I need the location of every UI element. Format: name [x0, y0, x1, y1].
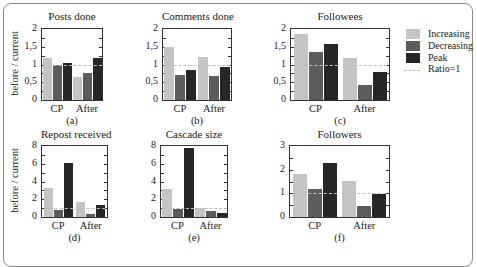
- y-tick-label: 0: [136, 210, 156, 221]
- y-tick-mark: [42, 173, 45, 174]
- y-tick-mark: [104, 182, 107, 183]
- bar-decreasing-after: [83, 73, 92, 100]
- panel-label: (f): [330, 232, 350, 243]
- y-tick-label: 2: [17, 192, 37, 203]
- y-tick-mark: [104, 190, 107, 191]
- y-tick-label: 0: [138, 93, 158, 104]
- y-tick-mark: [224, 155, 227, 156]
- x-category-label: CP: [298, 103, 334, 114]
- y-tick-label: 0,5: [266, 75, 286, 86]
- y-tick-mark: [42, 47, 45, 48]
- x-category-label: After: [73, 220, 109, 231]
- y-tick-mark: [386, 170, 389, 171]
- legend-dash-ratio: [404, 70, 420, 71]
- y-tick-mark: [99, 56, 102, 57]
- y-tick-label: 2: [136, 192, 156, 203]
- x-category-label: CP: [40, 220, 76, 231]
- bar-peak-cp: [324, 44, 338, 100]
- bar-peak-cp: [186, 70, 196, 100]
- ratio-reference-line: [164, 65, 196, 66]
- y-tick-mark: [290, 170, 293, 171]
- y-tick-label: 0: [17, 210, 37, 221]
- ratio-reference-line: [342, 193, 386, 194]
- y-tick-mark: [228, 38, 231, 39]
- bar-decreasing-after: [86, 214, 95, 217]
- y-tick-mark: [161, 155, 164, 156]
- y-tick-mark: [161, 164, 164, 165]
- y-tick-label: 1: [266, 58, 286, 69]
- bar-peak-after: [373, 72, 387, 100]
- chart-title: Followers: [289, 128, 390, 140]
- legend-swatch-peak: [406, 53, 420, 63]
- y-tick-mark: [161, 182, 164, 183]
- bar-decreasing-after: [209, 76, 219, 100]
- ratio-reference-line: [73, 65, 102, 66]
- bar-decreasing-cp: [175, 75, 185, 100]
- panel-label: (c): [330, 115, 350, 126]
- chart-title: Cascade size: [160, 128, 228, 140]
- ratio-reference-line: [293, 193, 337, 194]
- y-tick-mark: [386, 182, 389, 183]
- legend-swatch-increasing: [406, 29, 420, 39]
- bar-increasing-after: [195, 208, 205, 217]
- ratio-reference-line: [294, 65, 338, 66]
- bar-increasing-after: [342, 181, 356, 217]
- y-tick-mark: [290, 158, 293, 159]
- y-tick-mark: [104, 164, 107, 165]
- y-tick-mark: [386, 38, 389, 39]
- bar-increasing-cp: [293, 174, 307, 217]
- legend-swatch-decreasing: [406, 41, 420, 51]
- bar-increasing-cp: [162, 189, 172, 217]
- x-category-label: After: [193, 220, 229, 231]
- y-tick-label: 1: [138, 58, 158, 69]
- y-tick-label: 2: [17, 22, 37, 33]
- x-category-label: CP: [160, 220, 196, 231]
- panel-label: (b): [187, 115, 207, 126]
- y-tick-label: 0,5: [138, 75, 158, 86]
- y-tick-mark: [224, 182, 227, 183]
- bar-decreasing-cp: [309, 52, 323, 100]
- y-tick-label: 4: [17, 175, 37, 186]
- chart-title: Repost received: [41, 128, 108, 140]
- ratio-reference-line: [162, 208, 194, 209]
- ratio-reference-line: [198, 65, 230, 66]
- y-tick-label: 6: [136, 157, 156, 168]
- bar-increasing-after: [76, 202, 85, 217]
- x-category-label: After: [347, 103, 383, 114]
- y-tick-mark: [104, 155, 107, 156]
- bar-increasing-cp: [44, 188, 53, 217]
- bar-peak-cp: [184, 148, 194, 217]
- y-tick-label: 0,5: [17, 75, 37, 86]
- bar-decreasing-after: [357, 206, 371, 217]
- chart-title: Comments done: [162, 10, 232, 22]
- bar-peak-after: [220, 67, 230, 100]
- y-tick-mark: [386, 205, 389, 206]
- bar-increasing-cp: [164, 47, 174, 100]
- bar-increasing-cp: [294, 34, 308, 100]
- x-category-label: After: [196, 103, 232, 114]
- y-tick-mark: [42, 56, 45, 57]
- panel-label: (e): [184, 232, 204, 243]
- bar-decreasing-after: [206, 211, 216, 217]
- y-tick-mark: [163, 38, 166, 39]
- y-tick-mark: [224, 190, 227, 191]
- bar-decreasing-after: [358, 85, 372, 100]
- y-tick-label: 1: [265, 186, 285, 197]
- panel-label: (d): [65, 232, 85, 243]
- ratio-reference-line: [343, 65, 387, 66]
- bar-decreasing-cp: [54, 210, 63, 217]
- y-tick-mark: [224, 199, 227, 200]
- y-tick-mark: [224, 173, 227, 174]
- y-tick-label: 1: [17, 58, 37, 69]
- bar-decreasing-cp: [53, 65, 62, 101]
- ratio-reference-line: [76, 208, 105, 209]
- y-tick-mark: [386, 47, 389, 48]
- y-tick-label: 0: [265, 210, 285, 221]
- bar-decreasing-cp: [173, 209, 183, 217]
- legend-label: Increasing: [428, 28, 470, 39]
- y-tick-label: 1,5: [138, 40, 158, 51]
- y-tick-label: 2: [266, 22, 286, 33]
- bar-peak-cp: [63, 63, 72, 100]
- y-tick-label: 0: [266, 93, 286, 104]
- y-tick-mark: [386, 56, 389, 57]
